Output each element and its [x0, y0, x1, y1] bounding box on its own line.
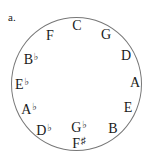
flat-sign-icon: ♭ [32, 101, 37, 112]
note-letter: D [36, 123, 46, 138]
note-d: D [121, 49, 131, 63]
note-letter: B [24, 52, 33, 67]
note-letter: D [121, 48, 131, 63]
note-eb: E♭ [15, 75, 29, 92]
note-gb: G♭ [71, 118, 86, 135]
note-letter: A [130, 75, 140, 90]
flat-sign-icon: ♭ [47, 122, 52, 133]
note-letter: E [124, 100, 133, 115]
flat-sign-icon: ♭ [82, 119, 87, 130]
note-g: G [101, 28, 111, 42]
note-letter: G [101, 27, 111, 42]
note-f: F [46, 29, 54, 43]
sharp-sign-icon: ♯ [81, 135, 86, 146]
note-letter: F [46, 28, 54, 43]
note-b: B [108, 122, 117, 136]
flat-sign-icon: ♭ [34, 51, 39, 62]
note-letter: A [21, 102, 31, 117]
note-c: C [72, 19, 81, 33]
note-letter: F [72, 136, 80, 151]
figure-label: a. [8, 11, 16, 23]
note-db: D♭ [36, 121, 51, 138]
note-bb: B♭ [24, 50, 39, 67]
note-a: A [130, 76, 140, 90]
note-fs: F♯ [72, 134, 85, 151]
note-letter: G [71, 120, 81, 135]
note-e: E [124, 101, 133, 115]
note-letter: E [15, 77, 24, 92]
note-ab: A♭ [21, 100, 36, 117]
flat-sign-icon: ♭ [24, 76, 29, 87]
note-letter: C [72, 18, 81, 33]
note-letter: B [108, 121, 117, 136]
